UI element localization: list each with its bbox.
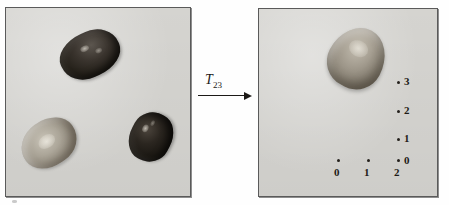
y-tick-dot-3 <box>397 81 400 84</box>
y-tick-label-0: 0 <box>404 155 410 166</box>
transform-arrow-group: T23 <box>198 72 256 104</box>
source-image-panel <box>5 7 191 197</box>
seed-light-left <box>12 108 86 179</box>
seed-dark-right <box>121 105 182 169</box>
x-tick-dot-1 <box>367 159 370 162</box>
seed-top-dark <box>53 21 128 87</box>
scan-artifact-speck <box>12 200 17 203</box>
y-tick-dot-2 <box>397 110 400 113</box>
target-image-panel: 3 2 1 0 0 1 2 <box>258 8 438 197</box>
y-tick-dot-0 <box>397 159 400 162</box>
y-tick-label-2: 2 <box>404 105 410 116</box>
seed-highlight <box>150 120 156 127</box>
transform-symbol: T <box>205 72 213 87</box>
x-tick-dot-0 <box>337 159 340 162</box>
seed-highlight <box>141 124 150 134</box>
y-tick-label-1: 1 <box>404 133 410 144</box>
arrow-head-icon <box>244 92 252 100</box>
figure-canvas: T23 3 2 1 0 0 1 2 <box>0 0 449 205</box>
transform-label: T23 <box>205 72 222 90</box>
seed-highlight <box>79 44 90 53</box>
y-tick-label-3: 3 <box>404 76 410 87</box>
y-tick-dot-1 <box>397 138 400 141</box>
seed-highlight <box>95 47 103 54</box>
seed-highlight <box>346 36 371 60</box>
seed-right-main <box>318 17 397 98</box>
x-tick-label-2: 2 <box>394 167 400 178</box>
x-tick-label-1: 1 <box>364 167 370 178</box>
x-tick-label-0: 0 <box>334 167 340 178</box>
arrow-line <box>198 95 246 96</box>
transform-subscript: 23 <box>213 80 222 90</box>
seed-highlight <box>35 131 57 152</box>
